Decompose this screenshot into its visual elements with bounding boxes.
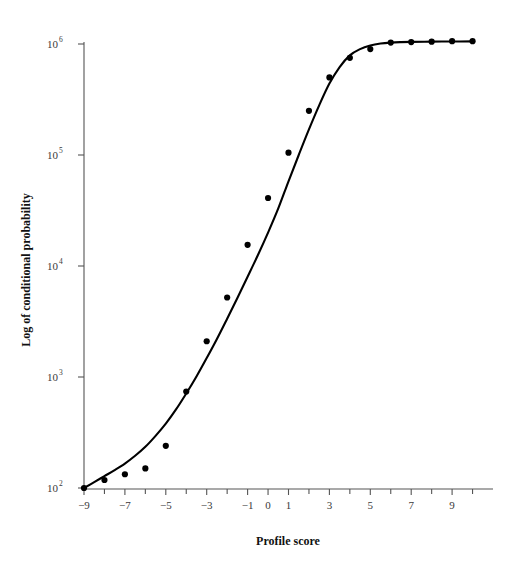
y-tick-exponent-1e6: 6 — [59, 35, 63, 44]
x-tick-label: −7 — [119, 499, 131, 511]
x-tick-label: 7 — [408, 499, 414, 511]
x-tick-label: 9 — [449, 499, 455, 511]
data-point — [429, 39, 435, 45]
x-tick-label: −3 — [201, 499, 213, 511]
data-point — [388, 39, 394, 45]
y-tick-exponent-1e4: 4 — [59, 257, 63, 266]
x-tick-label: 0 — [265, 499, 271, 511]
x-tick-label: −9 — [78, 499, 90, 511]
y-axis-title: Log of conditional probability — [19, 193, 33, 346]
data-points-group — [81, 38, 476, 491]
data-point — [101, 477, 107, 483]
data-point — [469, 38, 475, 44]
x-tick-label: −1 — [242, 499, 254, 511]
data-point — [347, 55, 353, 61]
data-point — [122, 471, 128, 477]
y-tick-exponent-1e2: 2 — [59, 479, 63, 488]
data-point — [163, 443, 169, 449]
axes-spines — [84, 42, 493, 489]
data-point — [326, 74, 332, 80]
data-point — [142, 465, 148, 471]
y-tick-exponent-1e3: 3 — [59, 368, 63, 377]
x-axis-tick-labels: −9−7−5−3−1013579 — [78, 499, 455, 511]
x-tick-label: 3 — [327, 499, 333, 511]
chart-canvas: 10 6 10 5 10 4 10 3 10 2 −9−7−5−3−101357… — [0, 0, 518, 569]
y-tick-label-1e2: 10 — [47, 482, 59, 494]
data-point — [367, 46, 373, 52]
x-axis-title: Profile score — [256, 534, 321, 548]
y-tick-label-1e4: 10 — [47, 260, 59, 272]
y-axis-tick-labels: 10 6 10 5 10 4 10 3 10 2 — [47, 35, 63, 494]
data-point — [265, 195, 271, 201]
y-tick-exponent-1e5: 5 — [59, 146, 63, 155]
y-tick-label-1e6: 10 — [47, 38, 59, 50]
y-axis-ticks — [78, 44, 84, 488]
figure-root: 10 6 10 5 10 4 10 3 10 2 −9−7−5−3−101357… — [0, 0, 518, 569]
data-point — [285, 150, 291, 156]
x-tick-label: 5 — [368, 499, 374, 511]
data-point — [306, 108, 312, 114]
data-point — [224, 294, 230, 300]
data-point — [204, 338, 210, 344]
data-point — [408, 39, 414, 45]
fitted-curve — [84, 41, 473, 488]
y-tick-label-1e5: 10 — [47, 149, 59, 161]
x-tick-label: −5 — [160, 499, 172, 511]
data-point — [183, 388, 189, 394]
x-tick-label: 1 — [286, 499, 292, 511]
x-axis-ticks — [84, 489, 473, 495]
data-point — [449, 38, 455, 44]
data-point — [245, 242, 251, 248]
data-point — [81, 485, 87, 491]
y-tick-label-1e3: 10 — [47, 371, 59, 383]
